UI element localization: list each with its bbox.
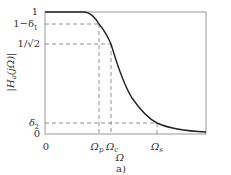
x-tick-omega-s: Ωs [150, 141, 163, 154]
response-curve [45, 12, 206, 132]
y-tick-one-minus-delta1-sub: 1 [34, 24, 38, 32]
x-tick-0: 0 [43, 141, 49, 152]
y-tick-inv-sqrt2: 1/√2 [18, 38, 40, 49]
chart: 1 1−δ 1 1/√2 δ 2 0 |Ha(jΩ)| 0 Ωp Ωc Ωs Ω… [0, 0, 231, 175]
svg-text:|Ha(jΩ)|: |Ha(jΩ)| [5, 53, 18, 92]
y-tick-one-minus-delta1: 1−δ [13, 18, 34, 29]
x-axis-title: Ω [115, 152, 124, 163]
reference-lines [45, 24, 157, 134]
figure-caption: a) [116, 163, 126, 174]
plot-frame [45, 12, 206, 134]
x-tick-omega-p: Ωp [90, 141, 104, 154]
y-tick-0: 0 [34, 128, 40, 139]
y-tick-1: 1 [32, 6, 38, 17]
y-axis-title: |Ha(jΩ)| [5, 53, 18, 92]
